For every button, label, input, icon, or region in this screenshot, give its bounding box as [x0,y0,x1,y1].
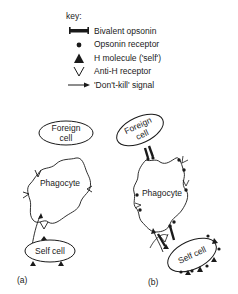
foreign-cell-a-label-2: cell [60,133,73,143]
self-cell-a: Self cell [25,236,75,266]
h-molecule-icon [41,236,47,240]
opsonin-links-foreign [145,146,155,161]
anti-h-receptor-icon [40,222,48,229]
opsonin-links-self [150,224,174,252]
phagocyte-a: Phagocyte [23,158,92,229]
foreign-cell-a-label-1: Foreign [52,123,81,133]
panel-b: Foreign cell Phagocyte [112,108,222,279]
self-cell-a-label: Self cell [35,246,65,256]
h-molecule-icon [30,261,36,266]
panel-b-label: (b) [148,277,158,287]
foreign-cell-b: Foreign cell [112,108,168,153]
phagocyte-b-label: Phagocyte [142,188,182,198]
panel-a-label: (a) [17,275,27,285]
phagocyte-b: Phagocyte [134,156,189,232]
diagram-canvas: Foreign cell Phagocyte Self cell [0,0,238,294]
panel-a: Foreign cell Phagocyte Self cell [23,121,93,266]
foreign-cell-a: Foreign cell [39,121,93,145]
phagocyte-a-label: Phagocyte [40,178,80,188]
